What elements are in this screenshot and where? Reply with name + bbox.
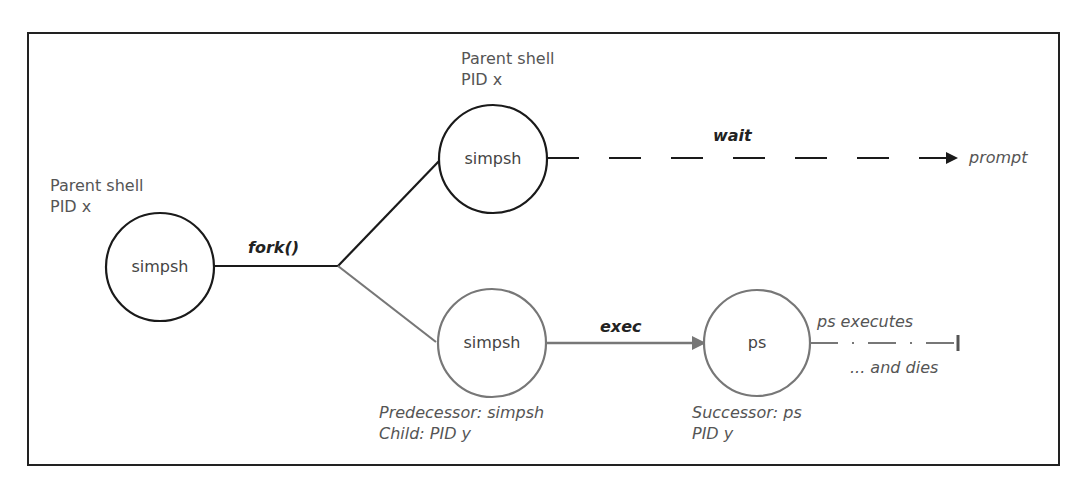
node-label: simpsh [437,333,547,352]
caption-line: PID y [692,423,802,444]
caption-line: Successor: ps [692,402,802,423]
exec-label: exec [600,316,642,337]
caption-line: Parent shell [461,48,555,69]
ps-executes-label: ps executes [817,311,913,332]
node-label: simpsh [438,149,548,168]
caption-line: Child: PID y [379,423,544,444]
caption-line: PID x [461,69,555,90]
node-label: ps [702,333,812,352]
child-caption: Predecessor: simpsh Child: PID y [379,402,544,444]
caption-line: Predecessor: simpsh [379,402,544,423]
prompt-label: prompt [969,147,1028,168]
parent-after-fork-caption: Parent shell PID x [461,48,555,90]
caption-line: PID x [50,196,144,217]
and-dies-label: ... and dies [850,357,938,378]
successor-caption: Successor: ps PID y [692,402,802,444]
fork-label: fork() [248,237,299,258]
fork-branch-parent [338,160,440,266]
wait-label: wait [713,125,752,146]
fork-branch-child [338,266,436,342]
caption-line: Parent shell [50,175,144,196]
parent-initial-caption: Parent shell PID x [50,175,144,217]
node-label: simpsh [105,257,215,276]
